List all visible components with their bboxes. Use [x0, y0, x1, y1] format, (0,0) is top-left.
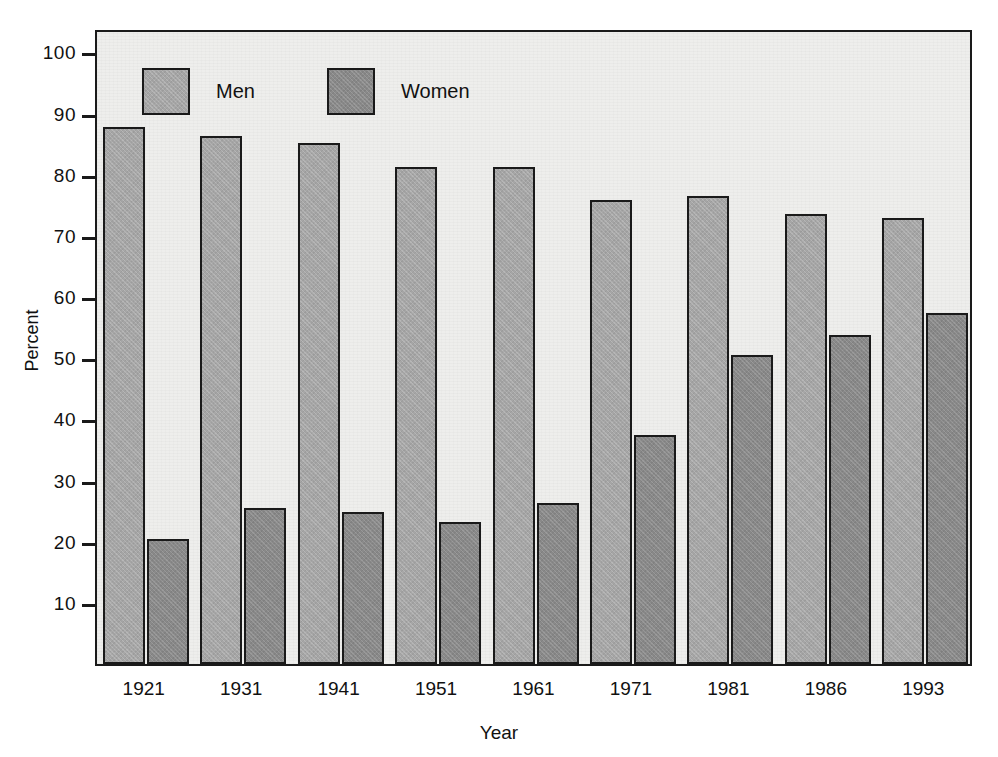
y-axis-tick-label: 30 [54, 472, 76, 491]
y-axis-tick [82, 298, 95, 301]
y-axis-tick-labels: 102030405060708090100 [0, 0, 76, 757]
y-axis-tick [82, 359, 95, 362]
bar-men-1951 [395, 167, 437, 664]
y-axis-tick-label: 20 [54, 533, 76, 552]
legend-label-women: Women [401, 80, 470, 103]
legend-swatch-men [142, 68, 190, 115]
x-axis-tick-label: 1951 [386, 678, 486, 700]
y-axis-tick [82, 604, 95, 607]
bar-women-1993 [926, 313, 968, 664]
y-axis-tick-label: 80 [54, 166, 76, 185]
bar-men-1971 [590, 200, 632, 664]
bar-men-1961 [493, 167, 535, 664]
chart-figure: Percent 102030405060708090100 MenWomen 1… [0, 0, 998, 757]
legend-swatch-women [327, 68, 375, 115]
x-axis-tick-label: 1941 [289, 678, 389, 700]
legend-label-men: Men [216, 80, 255, 103]
bar-men-1921 [103, 127, 145, 664]
y-axis-tick [82, 115, 95, 118]
y-axis-tick-label: 100 [43, 43, 76, 62]
x-axis-tick-label: 1931 [191, 678, 291, 700]
y-axis-tick [82, 482, 95, 485]
x-axis-tick-label: 1961 [484, 678, 584, 700]
legend-item-women: Women [327, 68, 470, 115]
y-axis-tick [82, 543, 95, 546]
bar-women-1971 [634, 435, 676, 664]
bar-women-1981 [731, 355, 773, 664]
bar-men-1986 [785, 214, 827, 664]
bar-women-1961 [537, 503, 579, 664]
y-axis-tick [82, 176, 95, 179]
y-axis-tick [82, 53, 95, 56]
y-axis-tick [82, 420, 95, 423]
y-axis-tick-label: 90 [54, 105, 76, 124]
plot-area: MenWomen [95, 30, 972, 666]
bar-women-1986 [829, 335, 871, 664]
legend-item-men: Men [142, 68, 255, 115]
bar-women-1921 [147, 539, 189, 664]
x-axis-tick-label: 1993 [873, 678, 973, 700]
y-axis-tick-label: 60 [54, 288, 76, 307]
bar-men-1941 [298, 143, 340, 664]
x-axis-tick-label: 1981 [678, 678, 778, 700]
bar-men-1993 [882, 218, 924, 664]
x-axis-title: Year [0, 722, 998, 744]
bar-women-1941 [342, 512, 384, 664]
x-axis-tick-label: 1971 [581, 678, 681, 700]
y-axis-tick [82, 237, 95, 240]
x-axis-tick-label: 1986 [776, 678, 876, 700]
y-axis-tick-label: 10 [54, 594, 76, 613]
y-axis-tick-label: 40 [54, 410, 76, 429]
bar-women-1931 [244, 508, 286, 664]
bar-men-1931 [200, 136, 242, 664]
bar-men-1981 [687, 196, 729, 664]
bar-women-1951 [439, 522, 481, 664]
y-axis-tick-label: 70 [54, 227, 76, 246]
y-axis-tick-label: 50 [54, 349, 76, 368]
x-axis-tick-label: 1921 [94, 678, 194, 700]
